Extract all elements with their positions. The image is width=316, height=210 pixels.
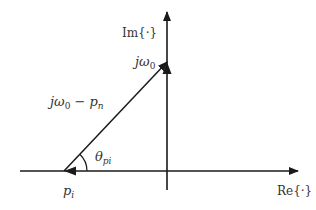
vector-pole-to-jw0: [64, 62, 167, 171]
jw0-axis-arrowhead: [163, 62, 172, 74]
angle-label-sub: pi: [103, 156, 112, 166]
jw0-label-main: jω: [132, 54, 150, 69]
angle-arc: [80, 154, 87, 171]
real-axis-label: Re{·}: [277, 184, 312, 198]
angle-label: θpi: [95, 149, 112, 166]
vector-label-main: jω: [47, 94, 65, 109]
vector-label-sub1: n: [98, 101, 104, 111]
vector-label: jω0 − pn: [47, 94, 104, 111]
s-plane-diagram: Im{·} Re{·} jω0 jω0 − pn θpi pi: [0, 0, 316, 210]
angle-label-main: θ: [95, 149, 103, 164]
jw0-label-sub: 0: [150, 61, 156, 71]
imaginary-axis-label: Im{·}: [122, 26, 157, 40]
pole-arrowhead: [64, 167, 76, 176]
jw0-label: jω0: [132, 54, 156, 71]
pole-label: pi: [63, 183, 74, 200]
pole-label-sub: i: [71, 190, 74, 200]
vector-label-mid: − p: [70, 94, 98, 109]
